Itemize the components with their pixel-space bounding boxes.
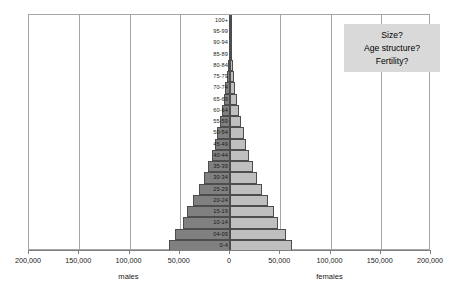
age-band-label: 100+ — [190, 15, 228, 26]
bar-female — [230, 37, 232, 48]
x-axis-tick — [430, 250, 431, 254]
age-band-label: 90-94 — [190, 37, 228, 48]
age-band-label: 85-89 — [190, 49, 228, 60]
bar-female — [230, 49, 232, 60]
age-band-label: 55-59 — [190, 116, 228, 127]
bar-row — [29, 139, 429, 150]
callout-line-age-structure: Age structure? — [364, 43, 420, 54]
age-band-label: 20-24 — [190, 195, 228, 206]
bar-row — [29, 195, 429, 206]
x-axis-tick-label: 100,000 — [116, 256, 142, 265]
bar-female — [230, 94, 237, 105]
x-axis-tick — [279, 250, 280, 254]
callout-line-size: Size? — [381, 30, 403, 41]
x-axis-tick-label: 0 — [227, 256, 231, 265]
age-band-label: 30-34 — [190, 172, 228, 183]
callout-line-fertility: Fertility? — [376, 56, 408, 67]
bar-row — [29, 150, 429, 161]
bar-female — [230, 60, 233, 71]
x-axis-tick — [380, 250, 381, 254]
age-band-label: 95-99 — [190, 26, 228, 37]
age-band-label: 40-44 — [190, 150, 228, 161]
axis-label-females: females — [316, 272, 343, 281]
bar-row — [29, 229, 429, 240]
bar-row — [29, 82, 429, 93]
age-band-label: 04-09 — [190, 229, 228, 240]
bar-female — [230, 172, 257, 183]
axis-label-males: males — [118, 272, 138, 281]
age-band-label: 25-29 — [190, 184, 228, 195]
age-band-label: 65-69 — [190, 94, 228, 105]
bar-female — [230, 229, 286, 240]
bar-female — [230, 195, 268, 206]
population-pyramid-chart: 0-404-0910-1415-1920-2425-2930-3435-3940… — [0, 0, 460, 294]
bar-female — [230, 217, 278, 228]
bar-row — [29, 172, 429, 183]
bar-female — [230, 116, 241, 127]
question-callout-box: Size? Age structure? Fertility? — [344, 24, 440, 72]
age-band-label: 10-14 — [190, 217, 228, 228]
age-band-label: 15-19 — [190, 206, 228, 217]
bar-female — [230, 82, 235, 93]
bar-row — [29, 71, 429, 82]
x-axis-tick — [229, 250, 230, 254]
bar-row — [29, 161, 429, 172]
age-band-label: 75-79 — [190, 71, 228, 82]
bar-female — [230, 105, 239, 116]
age-band-label: 50-54 — [190, 127, 228, 138]
age-band-label: 35-39 — [190, 161, 228, 172]
x-axis-tick — [179, 250, 180, 254]
x-axis-tick — [28, 250, 29, 254]
bar-female — [230, 161, 253, 172]
bar-row — [29, 184, 429, 195]
x-axis-tick-label: 50,000 — [168, 256, 190, 265]
bar-female — [230, 150, 249, 161]
bar-row — [29, 127, 429, 138]
x-axis-tick-label: 150,000 — [65, 256, 91, 265]
x-axis-tick — [330, 250, 331, 254]
bar-female — [230, 71, 234, 82]
bar-female — [230, 15, 232, 26]
bar-female — [230, 206, 274, 217]
x-axis-tick — [129, 250, 130, 254]
bar-female — [230, 127, 244, 138]
bar-female — [230, 26, 232, 37]
bar-row — [29, 206, 429, 217]
bar-row — [29, 217, 429, 228]
x-axis-tick-label: 50,000 — [268, 256, 290, 265]
age-band-label: 45-49 — [190, 139, 228, 150]
age-band-label: 80-84 — [190, 60, 228, 71]
bar-row — [29, 116, 429, 127]
x-axis-tick-label: 100,000 — [317, 256, 343, 265]
bar-female — [230, 139, 246, 150]
x-axis-tick-label: 150,000 — [367, 256, 393, 265]
bar-row — [29, 105, 429, 116]
age-band-label: 60-64 — [190, 105, 228, 116]
bar-row — [29, 94, 429, 105]
bar-female — [230, 184, 262, 195]
age-band-label: 70-74 — [190, 82, 228, 93]
x-axis-tick-label: 200,000 — [15, 256, 41, 265]
x-axis-tick-label: 200,000 — [417, 256, 443, 265]
x-axis-tick — [78, 250, 79, 254]
